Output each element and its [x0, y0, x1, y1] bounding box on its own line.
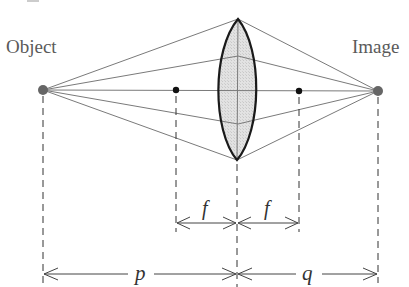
- image-label: Image: [352, 36, 399, 57]
- thin-lens-diagram: Object Image f f p q: [0, 0, 409, 287]
- focal-length-label-left: f: [202, 197, 210, 220]
- incident-rays: [43, 19, 378, 160]
- object-distance-label: p: [133, 261, 146, 285]
- focal-point-right: [296, 88, 302, 94]
- focal-length-label-right: f: [264, 197, 272, 220]
- image-distance-label: q: [302, 261, 313, 285]
- image-point: [373, 86, 383, 96]
- dashed-guides: [43, 96, 378, 287]
- object-label: Object: [6, 36, 57, 57]
- distance-dimension-arrows: [44, 268, 377, 280]
- object-point: [38, 85, 48, 95]
- focal-point-left: [173, 87, 179, 93]
- cropped-fragment: [27, 0, 39, 2]
